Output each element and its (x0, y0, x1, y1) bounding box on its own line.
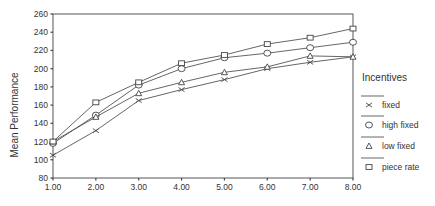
x-marker-icon (93, 129, 99, 133)
x-tick-label: 2.00 (88, 182, 105, 192)
x-axis: 1.002.003.004.005.006.007.008.00 (45, 178, 362, 192)
x-tick-label: 6.00 (259, 182, 276, 192)
square-marker-icon (50, 139, 56, 144)
legend-title: Incentives (362, 72, 407, 83)
y-tick-label: 140 (34, 118, 48, 128)
square-marker-icon (221, 53, 227, 58)
x-tick-label: 4.00 (173, 182, 190, 192)
y-tick-label: 100 (34, 155, 48, 165)
x-tick-label: 5.00 (216, 182, 233, 192)
x-legend-icon (366, 103, 372, 107)
legend-label: high fixed (382, 120, 419, 130)
series-fixed (50, 55, 356, 158)
series-layer (50, 26, 357, 157)
x-tick-label: 8.00 (345, 182, 362, 192)
square-legend-icon (366, 165, 372, 170)
square-marker-icon (350, 26, 356, 31)
line-chart: 80100120140160180200220240260 1.002.003.… (0, 0, 435, 206)
circle-marker-icon (350, 39, 357, 45)
circle-marker-icon (264, 50, 271, 56)
triangle-legend-icon (366, 143, 372, 148)
circle-legend-icon (366, 122, 373, 128)
circle-marker-icon (178, 66, 185, 72)
square-marker-icon (136, 80, 142, 85)
x-tick-label: 3.00 (130, 182, 147, 192)
legend-item: piece rate (366, 162, 420, 172)
legend-label: low fixed (382, 141, 415, 151)
x-marker-icon (221, 78, 227, 82)
x-tick-label: 1.00 (45, 182, 62, 192)
y-tick-label: 240 (34, 27, 48, 37)
square-marker-icon (264, 42, 270, 47)
square-marker-icon (307, 35, 313, 40)
legend-item: high fixed (366, 120, 419, 130)
y-tick-label: 220 (34, 45, 48, 55)
y-tick-label: 260 (34, 9, 48, 19)
legend: Incentives fixedhigh fixedlow fixedpiece… (361, 72, 420, 172)
x-marker-icon (179, 88, 185, 92)
y-axis-title: Mean Performance (9, 72, 20, 157)
y-tick-label: 180 (34, 82, 48, 92)
legend-item: fixed (366, 100, 400, 110)
square-marker-icon (93, 100, 99, 105)
series-line (53, 57, 353, 155)
x-marker-icon (136, 98, 142, 102)
y-tick-label: 200 (34, 64, 48, 74)
legend-item: low fixed (366, 141, 415, 151)
legend-label: piece rate (382, 162, 420, 172)
square-marker-icon (179, 61, 185, 66)
legend-label: fixed (382, 100, 400, 110)
y-tick-label: 160 (34, 100, 48, 110)
y-tick-label: 120 (34, 137, 48, 147)
circle-marker-icon (307, 45, 314, 51)
x-tick-label: 7.00 (302, 182, 319, 192)
